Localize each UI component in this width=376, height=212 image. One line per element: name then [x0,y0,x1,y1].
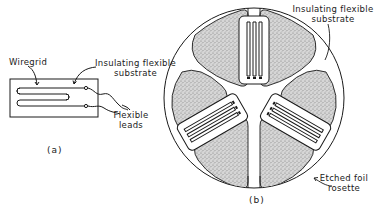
label-leads: Flexible leads [108,110,154,130]
label-substrate-b-line2: substrate [287,14,376,24]
label-leads-line2: leads [108,120,154,130]
label-substrate-b-line1: Insulating flexible [287,4,376,14]
label-substrate-b: Insulating flexible substrate [287,4,376,24]
solder-tab [84,104,87,107]
caption-b: (b) [249,195,265,205]
substrate-rect [10,79,98,117]
label-rosette: Etched foil rosette [314,173,374,193]
label-wiregrid: Wiregrid [9,57,47,67]
caption-a: (a) [47,145,63,155]
label-leads-line1: Flexible [108,110,154,120]
label-rosette-line2: rosette [314,183,374,193]
rosette-b [164,8,344,188]
solder-tab [84,86,87,89]
label-substrate-a-line1: Insulating flexible [88,58,183,68]
label-substrate-a: Insulating flexible substrate [88,58,183,78]
grid-top [239,16,269,84]
label-substrate-a-line2: substrate [88,68,183,78]
label-rosette-line1: Etched foil [314,173,374,183]
